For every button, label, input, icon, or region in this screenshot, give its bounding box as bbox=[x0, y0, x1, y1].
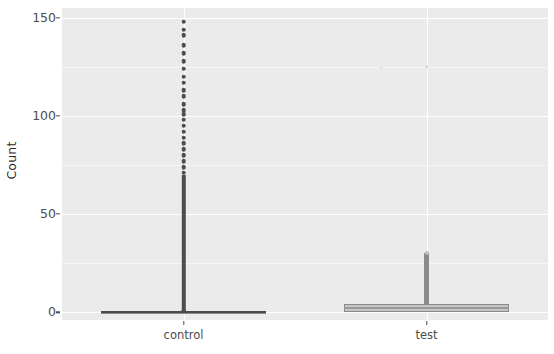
x-tick-label-test: test bbox=[415, 328, 437, 342]
outlier-point bbox=[181, 59, 186, 64]
median-line-test bbox=[344, 307, 508, 309]
whisker-upper bbox=[424, 253, 428, 304]
outlier-point bbox=[181, 80, 186, 85]
outlier-point bbox=[181, 153, 186, 158]
y-tick-label: 150 bbox=[12, 12, 56, 25]
gridline-minor bbox=[62, 165, 548, 166]
y-tick-label: 100 bbox=[12, 110, 56, 123]
outlier-point-faint bbox=[379, 65, 382, 68]
y-tick-label: 0 bbox=[12, 306, 56, 319]
plot-panel bbox=[62, 8, 548, 320]
boxplot-figure: Count 050100150 controltest bbox=[0, 0, 554, 354]
outlier-point bbox=[181, 88, 186, 93]
outlier-point bbox=[181, 33, 186, 38]
outlier-point bbox=[181, 19, 186, 24]
whisker-cap-point bbox=[425, 251, 429, 255]
outlier-point bbox=[181, 165, 186, 170]
outlier-point bbox=[181, 43, 186, 48]
outlier-point bbox=[181, 147, 186, 152]
outlier-point bbox=[181, 27, 186, 32]
outlier-point bbox=[181, 159, 186, 164]
y-tick-label: 50 bbox=[12, 208, 56, 221]
outlier-point bbox=[181, 118, 186, 123]
median-line-control bbox=[101, 311, 265, 313]
y-tick-mark bbox=[56, 311, 60, 312]
gridline-major bbox=[62, 18, 548, 19]
outlier-point bbox=[181, 102, 186, 107]
gridline-major bbox=[62, 214, 548, 215]
outlier-point bbox=[181, 112, 186, 117]
x-tick-mark bbox=[426, 321, 427, 325]
x-tick-label-control: control bbox=[164, 328, 204, 342]
outlier-point bbox=[181, 67, 186, 72]
outlier-point bbox=[181, 94, 186, 99]
outlier-point bbox=[181, 129, 186, 134]
gridline-minor bbox=[62, 67, 548, 68]
outlier-point bbox=[181, 51, 186, 56]
y-tick-mark bbox=[56, 115, 60, 116]
gridline-minor bbox=[62, 263, 548, 264]
outlier-dense-column bbox=[181, 175, 185, 311]
y-tick-mark bbox=[56, 213, 60, 214]
x-tick-mark bbox=[183, 321, 184, 325]
outlier-point bbox=[181, 123, 186, 128]
y-axis-tick-labels: 050100150 bbox=[10, 0, 56, 354]
y-tick-mark bbox=[56, 17, 60, 18]
outlier-point bbox=[181, 135, 186, 140]
gridline-major bbox=[62, 116, 548, 117]
outlier-point bbox=[181, 141, 186, 146]
outlier-point bbox=[181, 74, 186, 79]
